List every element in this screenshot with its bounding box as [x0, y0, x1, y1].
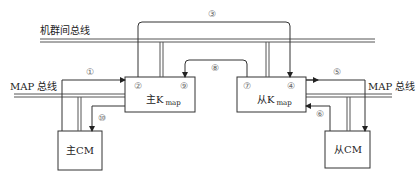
step-4-label: ④: [287, 82, 295, 91]
master-kmap-label: 主Kmap: [146, 95, 181, 108]
step-6-label: ⑥: [316, 110, 324, 119]
master-kmap-label-main: 主K: [146, 94, 163, 105]
slave-kmap-label: 从Kmap: [257, 95, 292, 108]
master-cm-bus-link: [78, 97, 81, 131]
map-bus-left-label: MAP 总线: [10, 82, 57, 92]
arrow-step-10: [92, 106, 125, 131]
slave-kmap-cluster-link: [266, 42, 269, 77]
step-2-label: ②: [134, 82, 142, 91]
step-9-label: ⑨: [180, 82, 188, 91]
step-1-label: ①: [86, 68, 94, 77]
slave-cm-label: 从CM: [334, 145, 362, 155]
cluster-bus-label: 机群间总线: [40, 26, 90, 36]
step-8-label: ⑧: [211, 64, 219, 73]
step-3-label: ③: [208, 10, 216, 19]
master-kmap-label-sub: map: [165, 99, 180, 107]
map-bus-right-label: MAP 总线: [368, 82, 415, 92]
step-10-label: ⑩: [98, 114, 106, 123]
master-kmap-cluster-link: [160, 42, 163, 77]
step-7-label: ⑦: [243, 82, 251, 91]
cluster-bus: [40, 39, 375, 42]
slave-kmap-label-main: 从K: [257, 94, 274, 105]
map-bus-right: [305, 94, 392, 97]
master-cm-label: 主CM: [66, 146, 94, 156]
slave-cm-bus-link: [347, 97, 350, 131]
slave-kmap-label-sub: map: [276, 99, 291, 107]
step-5-label: ⑤: [333, 68, 341, 77]
map-bus-left: [14, 94, 125, 97]
